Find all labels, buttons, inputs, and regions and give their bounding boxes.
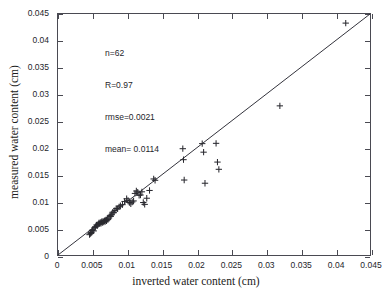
x-axis-tick-label: 0.03 <box>258 260 275 270</box>
data-point-marker <box>202 180 208 186</box>
x-axis-tick-label: 0.015 <box>151 260 172 270</box>
stat-r: R=0.97 <box>105 80 159 91</box>
stat-n: n=62 <box>105 48 159 59</box>
data-point-marker <box>213 140 219 146</box>
data-point-marker <box>151 176 157 182</box>
data-point-marker <box>343 20 349 26</box>
y-axis-tick-label: 0.04 <box>0 35 49 45</box>
x-axis-tick-label: 0.04 <box>328 260 345 270</box>
x-axis-tick-label: 0.005 <box>81 260 102 270</box>
y-axis-tick-label: 0.025 <box>0 116 49 126</box>
data-point-marker <box>181 177 187 183</box>
data-point-marker <box>216 166 222 172</box>
x-axis-tick-label: 0 <box>55 260 60 270</box>
stat-rmse: rmse=0.0021 <box>105 112 159 123</box>
scatter-plot-figure: measured water content (cm) inverted wat… <box>0 0 392 298</box>
x-axis-tick-label: 0.025 <box>221 260 242 270</box>
data-point-marker <box>139 189 145 195</box>
y-axis-tick-label: 0 <box>0 251 49 261</box>
statistics-annotation: n=62 R=0.97 rmse=0.0021 mean= 0.0114 <box>105 27 159 175</box>
y-axis-tick-label: 0.045 <box>0 8 49 18</box>
x-axis-tick-label: 0.035 <box>291 260 312 270</box>
x-axis-tick-label: 0.02 <box>188 260 205 270</box>
y-axis-tick-label: 0.01 <box>0 197 49 207</box>
y-axis-tick-label: 0.02 <box>0 143 49 153</box>
x-axis-title: inverted water content (cm) <box>0 275 392 287</box>
y-axis-tick-label: 0.03 <box>0 89 49 99</box>
stat-mean: mean= 0.0114 <box>105 144 159 155</box>
data-point-marker <box>277 103 283 109</box>
y-axis-tick-right <box>365 257 370 258</box>
x-axis-tick <box>372 250 373 255</box>
y-axis-tick-label: 0.015 <box>0 170 49 180</box>
data-point-marker <box>180 146 186 152</box>
y-axis-tick <box>58 257 63 258</box>
data-point-marker <box>180 156 186 162</box>
data-point-marker <box>146 187 152 193</box>
x-axis-tick-label: 0.01 <box>118 260 135 270</box>
y-axis-tick-label: 0.005 <box>0 224 49 234</box>
x-axis-tick-label: 0.045 <box>360 260 381 270</box>
data-point-marker <box>144 195 150 201</box>
y-axis-tick-label: 0.035 <box>0 62 49 72</box>
data-point-marker <box>200 149 206 155</box>
x-axis-tick-top <box>372 14 373 19</box>
data-point-marker <box>214 159 220 165</box>
